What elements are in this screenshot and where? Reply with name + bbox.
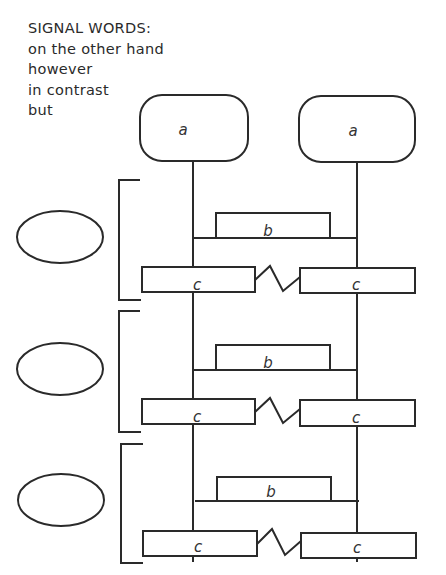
c-label-right: c	[353, 539, 362, 557]
section-bracket	[119, 180, 141, 300]
section-1: b c c	[17, 180, 415, 300]
b-box	[216, 213, 330, 238]
zigzag-connector	[257, 529, 301, 555]
section-bracket	[119, 311, 141, 432]
zigzag-connector	[255, 266, 300, 291]
c-label-left: c	[194, 538, 203, 556]
section-bracket	[121, 444, 143, 563]
blank-oval	[17, 343, 103, 395]
c-label-left: c	[193, 276, 202, 294]
top-box-left: a	[140, 95, 248, 161]
c-label-right: c	[352, 276, 361, 294]
top-box-left-label: a	[178, 121, 187, 139]
zigzag-connector	[255, 398, 300, 423]
section-2: b c c	[17, 311, 415, 432]
c-label-left: c	[193, 408, 202, 426]
b-label: b	[263, 222, 273, 240]
top-box-right-label: a	[348, 122, 357, 140]
top-box-right: a	[299, 96, 415, 162]
blank-oval	[18, 474, 104, 526]
blank-oval	[17, 211, 103, 263]
b-label: b	[263, 354, 273, 372]
c-label-right: c	[352, 409, 361, 427]
b-label: b	[266, 483, 276, 501]
contrast-diagram: a a b c c b c c b c	[0, 0, 446, 575]
b-box	[216, 345, 330, 370]
